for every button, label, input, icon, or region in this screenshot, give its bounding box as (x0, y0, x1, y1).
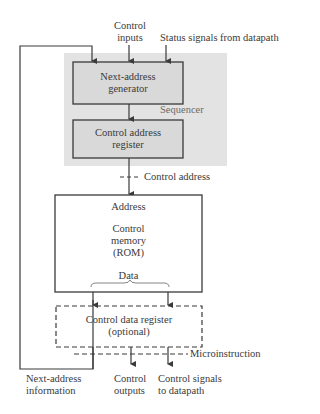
cs-line2: to datapath (158, 385, 222, 397)
generator-line1: Next-address (73, 71, 183, 83)
control-address-label: Control address (144, 171, 210, 183)
control-data-register-label: Control data register (optional) (56, 314, 202, 338)
co-line2: outputs (114, 385, 146, 397)
co-line1: Control (114, 373, 146, 385)
control-inputs-label: Control inputs (104, 20, 156, 44)
control-address-register-label: Control address register (73, 127, 183, 151)
status-signals-label: Status signals from datapath (160, 32, 279, 44)
next-address-information-label: Next-address information (26, 373, 81, 397)
sequencer-label: Sequencer (160, 104, 204, 116)
control-signals-label: Control signals to datapath (158, 373, 222, 397)
control-outputs-label: Control outputs (114, 373, 146, 397)
control-memory-label: Control memory (ROM) (55, 223, 202, 259)
nai-line2: information (26, 385, 81, 397)
cs-line1: Control signals (158, 373, 222, 385)
microinstruction-label: Microinstruction (190, 348, 261, 360)
rom-line1: Control (55, 223, 202, 235)
nai-line1: Next-address (26, 373, 81, 385)
rom-line3: (ROM) (55, 247, 202, 259)
rom-address-label: Address (55, 201, 202, 213)
cdr-line2: (optional) (56, 326, 202, 338)
rom-data-label: Data (55, 270, 202, 282)
register-line1: Control address (73, 127, 183, 139)
rom-line2: memory (55, 235, 202, 247)
control-inputs-line1: Control (104, 20, 156, 32)
control-inputs-line2: inputs (104, 32, 156, 44)
next-address-generator-label: Next-address generator (73, 71, 183, 95)
cdr-line1: Control data register (56, 314, 202, 326)
generator-line2: generator (73, 83, 183, 95)
register-line2: register (73, 139, 183, 151)
